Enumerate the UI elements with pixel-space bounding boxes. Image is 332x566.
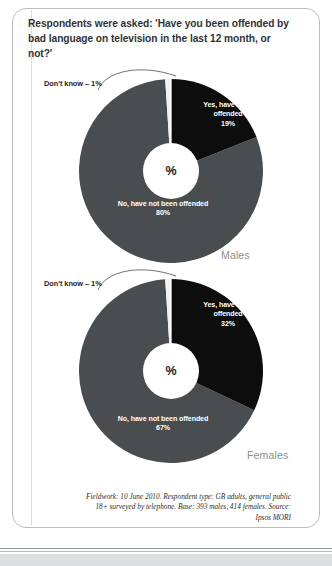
label-yes-females: Yes, have been offended 32% xyxy=(182,301,274,329)
label-no-females: No, have not been offended 67% xyxy=(66,415,260,434)
label-no-females-line1: No, have not been offended xyxy=(118,415,208,423)
figure-page: Respondents were asked: 'Have you been o… xyxy=(0,0,332,566)
source-footnote: Fieldwork: 10 June 2010. Respondent type… xyxy=(86,492,291,523)
label-no-males: No, have not been offended 80% xyxy=(66,200,260,219)
gender-label-males: Males xyxy=(221,249,250,261)
chart-females: Yes, have been offended 32% No, have not… xyxy=(0,0,332,200)
page-bottom-band xyxy=(0,554,332,566)
callout-line-females xyxy=(96,264,181,292)
callout-label-females: Don't know – 1% xyxy=(44,279,102,288)
label-no-females-value: 67% xyxy=(156,424,170,432)
label-yes-females-line2: offended xyxy=(213,310,242,318)
gender-label-females: Females xyxy=(247,449,288,461)
page-edge-rule-top xyxy=(0,548,332,549)
label-no-males-line1: No, have not been offended xyxy=(118,200,208,208)
page-edge-rule-bottom xyxy=(0,551,332,552)
label-yes-females-value: 32% xyxy=(221,320,235,328)
hub-percent-females: % xyxy=(141,364,201,378)
label-no-males-value: 80% xyxy=(156,209,170,217)
label-yes-females-line1: Yes, have been xyxy=(203,301,252,309)
